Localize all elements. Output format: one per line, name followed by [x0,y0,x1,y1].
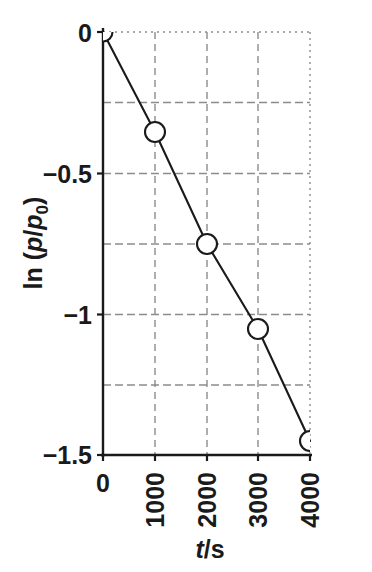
x-axis-title-unit: s [211,535,225,563]
x-tick-label-4000: 4000 [296,472,324,528]
x-tick-label-1000: 1000 [141,472,169,528]
y-axis-title-slash: / [19,230,47,237]
x-tick-label-2000: 2000 [193,472,221,528]
y-axis-title-prefix: ln ( [19,251,47,289]
x-tick-label-3000: 3000 [244,472,272,528]
y-axis-title-denominator: p [19,214,47,230]
x-tick-label-0: 0 [96,469,110,497]
x-axis-title: t/s [195,535,224,563]
y-tick-labels: 0 −0.5 −1 −1.5 [43,19,92,469]
data-point-marker-2000 [197,234,217,254]
svg-text:t/s: t/s [195,535,224,563]
data-point-marker-4000 [300,431,320,451]
y-axis-title-suffix: ) [19,197,47,205]
y-tick-label-minus-1: −1 [63,301,92,329]
figure-container: 0 −0.5 −1 −1.5 0 1000 2000 3000 4000 [0,0,372,572]
data-point-marker-0 [94,23,113,42]
y-axis-title-numerator: p [19,237,47,253]
y-tick-label-minus-0-5: −0.5 [43,160,92,188]
data-point-marker-3000 [248,319,268,339]
chart-canvas: 0 −0.5 −1 −1.5 0 1000 2000 3000 4000 [0,0,372,572]
y-axis-title: ln (p/p0) [19,197,52,290]
x-axis-title-slash: / [204,535,211,563]
svg-text:ln (p/p0): ln (p/p0) [19,197,52,290]
x-tick-labels: 0 1000 2000 3000 4000 [96,469,324,528]
y-tick-label-0: 0 [78,19,92,47]
y-axis-title-subscript: 0 [33,205,52,214]
data-point-marker-1000 [145,122,165,142]
y-tick-label-minus-1-5: −1.5 [43,441,92,469]
